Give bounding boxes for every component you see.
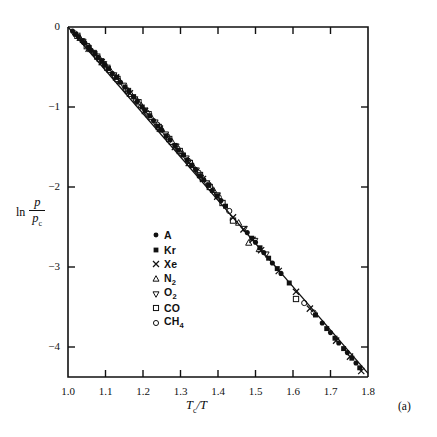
x-axis-label-tail: /T [197, 398, 207, 412]
y-tick-label: −1 [34, 100, 60, 112]
legend-item-N2[interactable]: N2 [148, 272, 184, 287]
legend-marker-cross-icon [148, 258, 164, 270]
plot-canvas [0, 0, 437, 437]
legend-item-A[interactable]: A [148, 228, 184, 243]
x-tick-label: 1.8 [352, 385, 384, 397]
chart-legend: AKrXeN2O2COCH4 [148, 228, 184, 330]
legend-label-subscript: 4 [180, 321, 184, 330]
legend-marker-filled-circle-icon [148, 229, 164, 241]
y-axis-label-denominator-sub: c [39, 219, 43, 228]
legend-label: N2 [164, 272, 176, 287]
y-axis-label-denominator: pc [29, 211, 45, 228]
y-tick-label: −3 [34, 260, 60, 272]
y-tick-label: −4 [34, 340, 60, 352]
legend-item-O2[interactable]: O2 [148, 286, 184, 301]
legend-marker-open-triangle-up-icon [148, 273, 164, 285]
y-tick-label: 0 [34, 20, 60, 32]
y-tick-label: −2 [34, 180, 60, 192]
x-tick-label: 1.0 [52, 385, 84, 397]
x-axis-label: Tc/T [186, 398, 207, 415]
legend-marker-filled-square-icon [148, 244, 164, 256]
legend-label: Kr [164, 244, 176, 256]
legend-item-CH4[interactable]: CH4 [148, 316, 184, 331]
legend-item-Xe[interactable]: Xe [148, 257, 184, 272]
y-axis-label-fraction: p pc [29, 196, 45, 228]
legend-marker-open-circle-icon [148, 317, 164, 329]
legend-item-CO[interactable]: CO [148, 301, 184, 316]
x-tick-label: 1.7 [315, 385, 347, 397]
legend-label: O2 [164, 286, 177, 301]
x-tick-label: 1.4 [202, 385, 234, 397]
legend-marker-open-triangle-down-icon [148, 288, 164, 300]
y-axis-label: ln p pc [16, 196, 45, 228]
legend-label-subscript: 2 [172, 292, 176, 301]
legend-label: Xe [164, 258, 177, 270]
legend-marker-open-square-icon [148, 302, 164, 314]
figure-container: 1.01.11.21.31.41.51.61.71.8 0−1−2−3−4 ln… [0, 0, 437, 437]
legend-label: CO [164, 302, 180, 314]
y-axis-label-numerator: p [31, 196, 43, 210]
legend-label: CH4 [164, 315, 184, 330]
x-axis-label-main: T [186, 398, 193, 412]
legend-label: A [164, 229, 172, 241]
panel-label: (a) [398, 400, 411, 412]
legend-item-Kr[interactable]: Kr [148, 243, 184, 258]
x-tick-label: 1.6 [277, 385, 309, 397]
x-tick-label: 1.5 [240, 385, 272, 397]
y-axis-label-ln: ln [16, 205, 25, 220]
x-tick-label: 1.3 [165, 385, 197, 397]
x-tick-label: 1.2 [127, 385, 159, 397]
x-tick-label: 1.1 [90, 385, 122, 397]
